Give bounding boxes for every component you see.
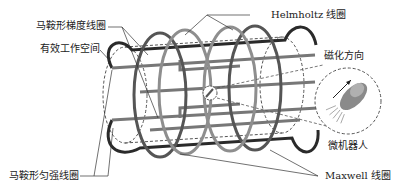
coil-system-diagram: 马鞍形梯度线圈 有效工作空间 Helmholtz 线圈 磁化方向 微机器人 马鞍… — [0, 0, 393, 190]
label-saddle-gradient-coil: 马鞍形梯度线圈 — [36, 20, 106, 32]
label-microrobot: 微机器人 — [328, 140, 368, 152]
label-effective-workspace: 有效工作空间 — [40, 43, 100, 55]
microrobot-center — [203, 86, 217, 100]
label-saddle-uniform-coil: 马鞍形匀强线圈 — [9, 170, 79, 182]
label-magnetization-direction: 磁化方向 — [324, 50, 364, 62]
label-helmholtz-coil: Helmholtz 线圈 — [271, 9, 346, 21]
label-maxwell-coil: Maxwell 线圈 — [325, 170, 391, 182]
